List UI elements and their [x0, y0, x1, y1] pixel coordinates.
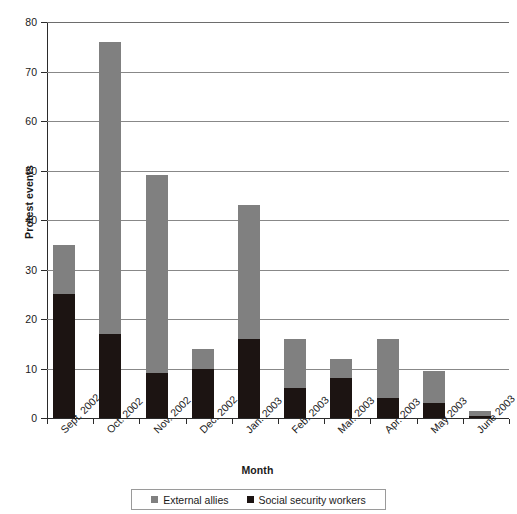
bar-group [330, 359, 352, 418]
bar-group [53, 245, 75, 418]
x-tick-mark [93, 419, 94, 424]
x-tick-mark [139, 419, 140, 424]
x-tick-mark [278, 419, 279, 424]
chart-legend: External alliesSocial security workers [131, 489, 386, 510]
y-tick-label-0: 0 [11, 413, 37, 424]
y-tick-label-50: 50 [11, 166, 37, 177]
gridline-80 [47, 22, 509, 23]
bar-segment-external-allies [423, 371, 445, 403]
bar-segment-social-security-workers [53, 294, 75, 418]
plot-area [47, 22, 509, 418]
bar-group [146, 175, 168, 418]
legend-swatch-icon [151, 496, 158, 503]
y-axis-ticks: 01020304050607080 [0, 0, 47, 514]
bar-group [192, 349, 214, 418]
x-axis-title: Month [0, 464, 515, 476]
bar-segment-external-allies [192, 349, 214, 369]
bar-segment-external-allies [238, 205, 260, 339]
y-tick-label-30: 30 [11, 265, 37, 276]
y-tick-label-20: 20 [11, 314, 37, 325]
bar-segment-social-security-workers [146, 373, 168, 418]
x-tick-mark [324, 419, 325, 424]
bar-segment-external-allies [146, 175, 168, 373]
bar-group [284, 339, 306, 418]
legend-item: Social security workers [247, 494, 366, 506]
bar-group [423, 371, 445, 418]
bar-segment-external-allies [284, 339, 306, 389]
y-tick-label-80: 80 [11, 17, 37, 28]
x-tick-mark [463, 419, 464, 424]
x-tick-mark [509, 419, 510, 424]
x-tick-mark [186, 419, 187, 424]
bar-segment-external-allies [330, 359, 352, 379]
bar-group [238, 205, 260, 418]
legend-label: Social security workers [259, 494, 366, 506]
bar-group [377, 339, 399, 418]
bar-segment-social-security-workers [192, 369, 214, 419]
y-tick-label-40: 40 [11, 215, 37, 226]
legend-label: External allies [163, 494, 228, 506]
bar-segment-social-security-workers [238, 339, 260, 418]
bar-segment-external-allies [53, 245, 75, 295]
x-tick-mark [47, 419, 48, 424]
bar-group [99, 42, 121, 418]
x-tick-mark [370, 419, 371, 424]
legend-item: External allies [151, 494, 228, 506]
x-tick-mark [417, 419, 418, 424]
x-tick-mark [232, 419, 233, 424]
legend-swatch-icon [247, 496, 254, 503]
y-tick-label-60: 60 [11, 116, 37, 127]
y-tick-label-70: 70 [11, 67, 37, 78]
bar-segment-external-allies [99, 42, 121, 334]
y-tick-label-10: 10 [11, 364, 37, 375]
bar-segment-social-security-workers [99, 334, 121, 418]
bar-segment-external-allies [377, 339, 399, 398]
